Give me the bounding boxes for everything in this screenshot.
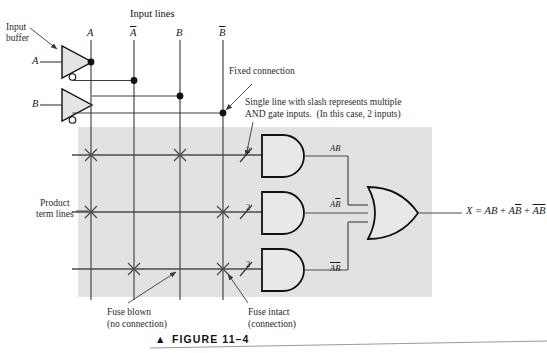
and-gate-1-input-count: 2 [246,145,250,155]
input-buffer-b [40,89,92,123]
and-gate-2-output-label: AB [330,199,340,209]
heading-input-lines: Input lines [130,8,175,20]
callout-fuse-intact-line1: Fuse intact [248,307,289,318]
input-buffer-a [40,46,92,80]
output-equation: X = AB + AB + AB [466,205,545,217]
leader-input-buffer [30,28,57,49]
figure-caption: FIGURE 11–4 [172,333,249,345]
callout-fuse-blown-line2: (no connection) [107,319,167,330]
input-label-a: A [32,55,38,67]
input-line-label-b-bar: B [219,27,225,39]
fixed-connection-dot-b [177,93,184,100]
fixed-connection-dot-a [88,59,95,66]
and-gate-1-output-label: AB [330,143,340,153]
and-gate-3-output-label: AB [330,263,340,273]
fixed-connection-dot-a-bar [131,77,138,84]
label-input-buffer: Input buffer [6,22,29,44]
and-gate-3-input-count: 2 [246,259,250,269]
figure-11-4: Input lines Input buffer A B A A B B Fix… [0,0,547,353]
fixed-connection-dot-b-bar [220,110,227,117]
callout-fixed-connection: Fixed connection [229,66,295,77]
callout-slash-note-line1: Single line with slash represents multip… [245,97,401,108]
callout-fuse-blown-line1: Fuse blown [107,307,151,318]
input-line-label-a-bar: A [130,27,136,39]
input-line-label-b: B [176,27,182,39]
and-gate-2-input-count: 2 [246,202,250,212]
input-line-label-a: A [87,27,93,39]
input-label-b: B [32,98,38,110]
pld-array-diagram [0,0,547,353]
callout-slash-note-line2: AND gate inputs. (In this case, 2 inputs… [245,109,401,120]
callout-fuse-intact-line2: (connection) [248,319,296,330]
figure-caption-marker: ▲ [155,333,167,345]
label-product-term-lines: Product term lines [36,198,74,220]
